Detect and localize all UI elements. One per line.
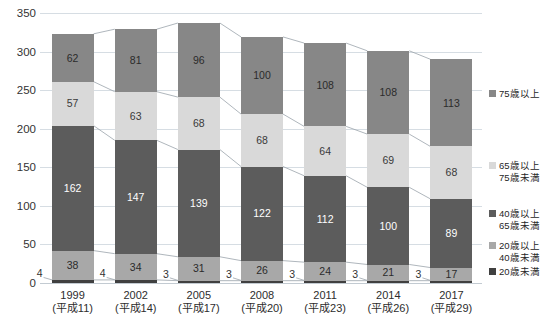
legend-label: 65歳以上75歳未満 <box>499 160 540 183</box>
legend-20-40[interactable]: 20歳以上40歳未満 <box>489 240 540 263</box>
bar-group: 2612268100 <box>241 13 283 283</box>
bar-value-label: 62 <box>67 53 79 64</box>
bar-segment: 112 <box>304 176 346 262</box>
legend-40-65[interactable]: 40歳以上65歳未満 <box>489 208 540 231</box>
x-axis-labels: 1999(平成11)2002(平成14)2005(平成17)2008(平成20)… <box>40 287 482 321</box>
legend-label: 20歳未満 <box>499 266 540 278</box>
bar-segment: 113 <box>430 59 472 146</box>
plot-area: 3816257623414763813113968962612268100241… <box>40 13 482 283</box>
x-tick-era: (平成11) <box>52 302 93 315</box>
bar-group: 341476381 <box>115 13 157 283</box>
bar-value-label: 139 <box>190 198 208 209</box>
bar-segment: 68 <box>430 146 472 198</box>
bar-value-label: 100 <box>253 70 271 81</box>
y-tick-label-300: 300 <box>17 46 36 58</box>
y-tick-label-350: 350 <box>17 7 36 19</box>
bar-segment <box>115 280 157 283</box>
bar-value-callout: 4 <box>100 267 106 279</box>
bar-value-label: 96 <box>193 55 205 66</box>
legend-swatch-icon <box>489 210 496 217</box>
bar-segment: 108 <box>367 51 409 134</box>
legend-swatch-icon <box>489 90 496 97</box>
bar-segment: 68 <box>241 114 283 166</box>
bar-value-label: 31 <box>193 263 205 274</box>
bar-segment: 122 <box>241 167 283 261</box>
y-tick-label-100: 100 <box>17 200 36 212</box>
bar-value-label: 81 <box>130 55 142 66</box>
legend-label-line2: 40歳未満 <box>499 252 540 264</box>
bar-segment: 100 <box>241 37 283 114</box>
bar-segment: 139 <box>178 150 220 257</box>
bar-value-label: 113 <box>443 98 460 109</box>
bar-value-label: 100 <box>380 221 398 232</box>
chart-legend: 75歳以上65歳以上75歳未満40歳以上65歳未満20歳以上40歳未満20歳未満 <box>489 0 547 321</box>
x-tick-era: (平成17) <box>178 302 220 315</box>
x-tick-year: 2002 <box>115 289 157 302</box>
bar-segment: 34 <box>115 254 157 280</box>
x-tick-year: 2017 <box>431 289 473 302</box>
x-tick-era: (平成14) <box>115 302 157 315</box>
bar-value-label: 21 <box>382 267 394 278</box>
bar-value-label: 68 <box>446 167 458 178</box>
x-tick-era: (平成23) <box>304 302 346 315</box>
legend-label: 40歳以上65歳未満 <box>499 208 540 231</box>
bar-value-label: 89 <box>446 228 458 239</box>
bar-segment: 31 <box>178 257 220 281</box>
bar-value-label: 26 <box>256 265 268 276</box>
bar-segment <box>52 280 94 283</box>
bar-segment: 96 <box>178 23 220 97</box>
bar-value-label: 38 <box>67 260 79 271</box>
x-tick-year: 2014 <box>368 289 410 302</box>
bar-segment <box>304 281 346 283</box>
x-tick-label: 2017(平成29) <box>431 289 473 315</box>
x-tick-year: 1999 <box>52 289 93 302</box>
legend-swatch-icon <box>489 242 496 249</box>
bar-segment: 64 <box>304 126 346 175</box>
x-tick-label: 2002(平成14) <box>115 289 157 315</box>
legend-swatch-icon <box>489 162 496 169</box>
bar-segment: 147 <box>115 140 157 253</box>
bar-segment: 62 <box>52 34 94 82</box>
bar-group: 381625762 <box>52 13 94 283</box>
legend-label-line2: 65歳未満 <box>499 220 540 232</box>
bar-segment: 57 <box>52 82 94 126</box>
bar-value-label: 68 <box>193 118 205 129</box>
bar-segment <box>367 281 409 283</box>
bar-segment: 63 <box>115 92 157 141</box>
x-tick-label: 1999(平成11) <box>52 289 93 315</box>
bar-group: 178968113 <box>430 13 472 283</box>
legend-65-75[interactable]: 65歳以上75歳未満 <box>489 160 540 183</box>
y-tick-label-50: 50 <box>23 238 36 250</box>
bar-segment <box>430 281 472 283</box>
legend-label-line2: 75歳未満 <box>499 172 540 184</box>
y-tick-label-200: 200 <box>17 123 36 135</box>
y-tick-label-150: 150 <box>17 161 36 173</box>
bar-segment: 26 <box>241 261 283 281</box>
bar-value-label: 69 <box>382 155 394 166</box>
bar-value-label: 17 <box>446 269 458 280</box>
bar-segment: 108 <box>304 43 346 126</box>
bar-value-label: 57 <box>67 98 79 109</box>
stacked-bar-chart: 050100150200250300350 381625762341476381… <box>0 0 547 321</box>
x-tick-label: 2008(平成20) <box>241 289 283 315</box>
legend-under-20[interactable]: 20歳未満 <box>489 266 540 278</box>
bar-segment: 68 <box>178 97 220 149</box>
legend-label: 20歳以上40歳未満 <box>499 240 540 263</box>
bar-group: 311396896 <box>178 13 220 283</box>
gridline-0 <box>40 283 482 284</box>
x-tick-label: 2005(平成17) <box>178 289 220 315</box>
legend-75-plus[interactable]: 75歳以上 <box>489 88 540 100</box>
bar-value-label: 64 <box>319 146 331 157</box>
bar-value-label: 112 <box>317 214 334 225</box>
bar-group: 2411264108 <box>304 13 346 283</box>
bar-value-label: 147 <box>127 192 145 203</box>
bar-segment: 38 <box>52 251 94 280</box>
bar-segment: 89 <box>430 199 472 268</box>
x-tick-year: 2008 <box>241 289 283 302</box>
bar-value-label: 162 <box>64 183 82 194</box>
x-tick-era: (平成29) <box>431 302 473 315</box>
bar-value-label: 122 <box>253 208 271 219</box>
y-tick-label-250: 250 <box>17 84 36 96</box>
legend-swatch-icon <box>489 268 496 275</box>
bar-segment: 21 <box>367 265 409 281</box>
